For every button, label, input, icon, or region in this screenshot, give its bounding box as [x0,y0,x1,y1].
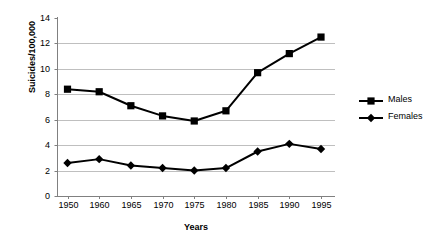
legend-label: Females [388,111,423,121]
chart-legend: MalesFemales [358,90,423,124]
y-tick-label: 6 [28,116,50,125]
x-axis-title: Years [57,222,335,232]
legend-item-females[interactable]: Females [358,107,423,124]
y-tick-label: 2 [28,167,50,176]
y-tick-label: 4 [28,141,50,150]
square-marker-icon [358,93,384,105]
y-tick-label: 0 [28,192,50,201]
y-tick-label: 14 [28,14,50,23]
diamond-marker-icon [358,110,384,122]
x-tick-label: 1995 [302,201,342,210]
y-tick-label: 12 [28,39,50,48]
legend-item-males[interactable]: Males [358,90,423,107]
y-tick-label: 10 [28,65,50,74]
legend-label: Males [388,94,412,104]
series-layer [63,33,325,174]
line-chart: Suicides/100,000 02468101214 19501960196… [0,0,437,243]
y-tick-label: 8 [28,90,50,99]
